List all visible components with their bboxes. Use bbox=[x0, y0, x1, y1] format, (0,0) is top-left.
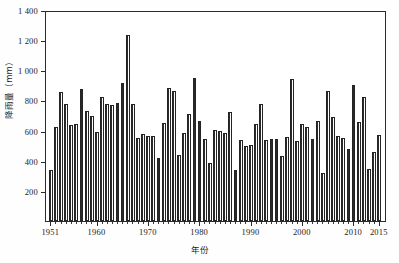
bar-2004 bbox=[321, 173, 325, 221]
bar-1959 bbox=[90, 116, 94, 221]
x-minor-tick-1962 bbox=[107, 222, 108, 224]
bar-2013 bbox=[367, 169, 371, 221]
x-minor-tick-1983 bbox=[215, 222, 216, 224]
bar-1967 bbox=[131, 104, 135, 221]
bar-1969 bbox=[141, 134, 145, 221]
x-tick-label-1980: 1980 bbox=[190, 228, 208, 237]
x-minor-tick-1979 bbox=[194, 222, 195, 224]
bar-1966 bbox=[126, 35, 130, 221]
bar-2002 bbox=[311, 139, 315, 221]
bar-1988 bbox=[239, 140, 243, 221]
x-minor-tick-1963 bbox=[112, 222, 113, 224]
bar-1975 bbox=[172, 91, 176, 221]
y-tick-label-600: 600 bbox=[25, 127, 38, 136]
bar-1983 bbox=[213, 130, 217, 221]
bar-1990 bbox=[249, 145, 253, 221]
x-minor-tick-1961 bbox=[102, 222, 103, 224]
bar-2008 bbox=[341, 138, 345, 221]
bar-1961 bbox=[100, 97, 104, 221]
x-minor-tick-1987 bbox=[235, 222, 236, 224]
y-tick-label-200: 200 bbox=[25, 188, 38, 197]
x-tick-label-1960: 1960 bbox=[88, 228, 106, 237]
plot-area bbox=[45, 11, 386, 222]
x-minor-tick-2004 bbox=[322, 222, 323, 224]
x-minor-tick-1959 bbox=[91, 222, 92, 224]
bar-2000 bbox=[300, 124, 304, 221]
x-minor-tick-1967 bbox=[132, 222, 133, 224]
bar-1992 bbox=[259, 104, 263, 221]
x-minor-tick-1985 bbox=[225, 222, 226, 224]
x-minor-tick-2012 bbox=[363, 222, 364, 224]
precipitation-bar-chart: 1 400 1 200 1 000 800 600 400 200 降雨量（mm… bbox=[0, 0, 399, 263]
bars-layer bbox=[46, 12, 385, 221]
bar-1986 bbox=[228, 112, 232, 221]
bar-1979 bbox=[193, 78, 197, 221]
x-tick-mark-2010 bbox=[353, 222, 354, 226]
x-minor-tick-1968 bbox=[138, 222, 139, 224]
bar-1951 bbox=[49, 170, 53, 221]
x-tick-mark-1980 bbox=[199, 222, 200, 226]
bar-1962 bbox=[105, 104, 109, 221]
x-minor-tick-1981 bbox=[204, 222, 205, 224]
x-minor-tick-1977 bbox=[184, 222, 185, 224]
x-minor-tick-2014 bbox=[374, 222, 375, 224]
bar-1981 bbox=[203, 139, 207, 221]
bar-1963 bbox=[110, 105, 114, 221]
bar-1973 bbox=[162, 123, 166, 221]
bar-1985 bbox=[223, 133, 227, 221]
bar-2006 bbox=[331, 117, 335, 221]
bar-1953 bbox=[59, 92, 63, 221]
x-minor-tick-1992 bbox=[261, 222, 262, 224]
bar-1982 bbox=[208, 163, 212, 221]
x-minor-tick-1984 bbox=[220, 222, 221, 224]
x-tick-mark-2000 bbox=[302, 222, 303, 226]
x-minor-tick-2013 bbox=[369, 222, 370, 224]
x-minor-tick-2007 bbox=[338, 222, 339, 224]
bar-1964 bbox=[116, 103, 120, 221]
bar-1999 bbox=[295, 141, 299, 221]
bar-2014 bbox=[372, 152, 376, 221]
bar-1952 bbox=[54, 127, 58, 221]
x-tick-mark-1970 bbox=[148, 222, 149, 226]
x-minor-tick-2008 bbox=[343, 222, 344, 224]
bar-1955 bbox=[69, 125, 73, 221]
x-tick-mark-2015 bbox=[379, 222, 380, 226]
bar-1978 bbox=[187, 114, 191, 221]
x-minor-tick-1988 bbox=[240, 222, 241, 224]
x-minor-tick-1971 bbox=[153, 222, 154, 224]
x-minor-tick-1991 bbox=[256, 222, 257, 224]
x-minor-tick-2003 bbox=[317, 222, 318, 224]
x-minor-tick-1999 bbox=[297, 222, 298, 224]
bar-1998 bbox=[290, 79, 294, 221]
bar-2007 bbox=[336, 136, 340, 221]
x-minor-tick-1989 bbox=[245, 222, 246, 224]
x-minor-tick-1978 bbox=[189, 222, 190, 224]
bar-1958 bbox=[85, 111, 89, 221]
bar-1996 bbox=[280, 156, 284, 221]
x-tick-label-2015: 2015 bbox=[370, 228, 388, 237]
bar-1995 bbox=[275, 139, 279, 221]
bar-1984 bbox=[218, 131, 222, 221]
x-minor-tick-1958 bbox=[86, 222, 87, 224]
bar-1970 bbox=[146, 136, 150, 221]
x-minor-tick-1957 bbox=[81, 222, 82, 224]
bar-1954 bbox=[64, 104, 68, 221]
x-tick-label-1990: 1990 bbox=[242, 228, 260, 237]
x-minor-tick-2006 bbox=[333, 222, 334, 224]
x-minor-tick-2001 bbox=[307, 222, 308, 224]
bar-1989 bbox=[244, 146, 248, 221]
x-minor-tick-1975 bbox=[174, 222, 175, 224]
y-tick-label-1000: 1 000 bbox=[18, 67, 38, 76]
x-axis: 19511960197019801990200020102015 bbox=[0, 222, 399, 244]
x-tick-label-1970: 1970 bbox=[139, 228, 157, 237]
x-axis-title: 年份 bbox=[0, 245, 399, 255]
x-minor-tick-1996 bbox=[281, 222, 282, 224]
x-minor-tick-1982 bbox=[209, 222, 210, 224]
x-tick-mark-1960 bbox=[97, 222, 98, 226]
bar-2011 bbox=[357, 122, 361, 221]
x-minor-tick-1955 bbox=[71, 222, 72, 224]
bar-1968 bbox=[136, 138, 140, 221]
bar-1994 bbox=[270, 139, 274, 221]
bar-1980 bbox=[198, 121, 202, 221]
y-axis-title: 降雨量（mm） bbox=[4, 50, 14, 126]
